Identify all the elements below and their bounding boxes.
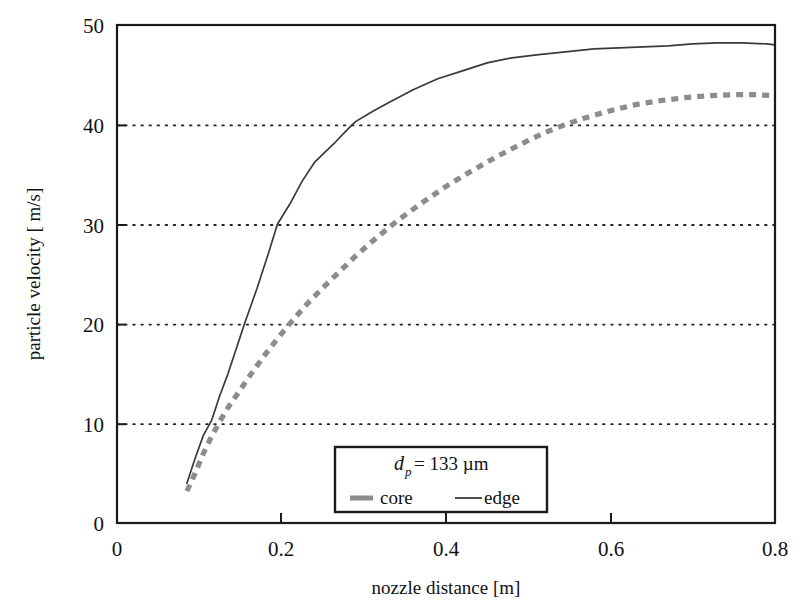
y-tick-label-0: 0 bbox=[94, 512, 105, 536]
legend-dp-value: = 133 µm bbox=[414, 453, 489, 474]
x-tick-label-0.4: 0.4 bbox=[433, 537, 460, 561]
y-tick-label-20: 20 bbox=[83, 313, 104, 337]
legend-label-core: core bbox=[380, 487, 413, 508]
legend: d p = 133 µm core edge bbox=[335, 447, 547, 512]
y-tick-label-10: 10 bbox=[83, 413, 104, 437]
x-tick-label-0.8: 0.8 bbox=[762, 537, 788, 561]
x-tick-label-0: 0 bbox=[112, 537, 123, 561]
x-axis-title: nozzle distance [m] bbox=[372, 577, 521, 598]
y-tick-label-40: 40 bbox=[83, 114, 104, 138]
legend-dp-symbol: d bbox=[394, 452, 405, 474]
y-axis-title: particle velocity [ m/s] bbox=[23, 188, 44, 361]
y-tick-label-50: 50 bbox=[83, 14, 104, 38]
x-tick-label-0.6: 0.6 bbox=[598, 537, 624, 561]
chart-figure: 50 40 30 20 10 0 0 0.2 0.4 0.6 0.8 nozzl… bbox=[0, 0, 806, 614]
x-tick-label-0.2: 0.2 bbox=[268, 537, 294, 561]
y-tick-label-30: 30 bbox=[83, 214, 104, 238]
legend-dp-subscript: p bbox=[404, 464, 412, 479]
legend-label-edge: edge bbox=[484, 487, 520, 508]
particle-velocity-chart: 50 40 30 20 10 0 0 0.2 0.4 0.6 0.8 nozzl… bbox=[0, 0, 806, 614]
